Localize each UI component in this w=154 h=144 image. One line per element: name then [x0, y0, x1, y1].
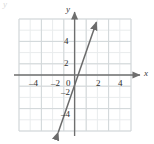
coordinate-plane-figure: y [0, 0, 154, 144]
y-tick-label-2: 2 [64, 59, 69, 68]
y-tick-label-4: 4 [64, 37, 69, 46]
x-tick-label-4: 4 [118, 79, 123, 88]
x-tick-label-2: 2 [96, 79, 101, 88]
y-tick-label--4: –4 [61, 110, 70, 119]
x-tick-label--2: –2 [51, 79, 60, 88]
x-axis-label: x [144, 69, 148, 78]
x-tick-label--4: –4 [29, 79, 38, 88]
y-axis-label: y [66, 5, 70, 14]
y-tick-label--2: –2 [61, 88, 70, 97]
graph-canvas [0, 0, 154, 144]
